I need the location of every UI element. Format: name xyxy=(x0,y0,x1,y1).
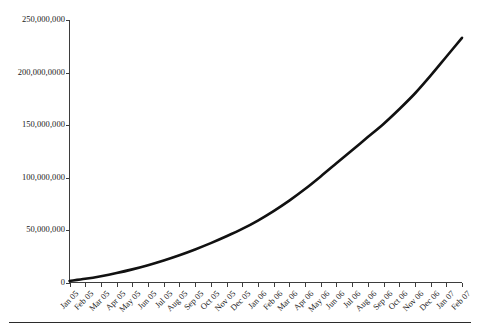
line-chart: 250,000,000200,000,0000150,000,000100,00… xyxy=(0,0,478,332)
bottom-rule xyxy=(9,322,471,323)
x-tick-label-layer: Jan 05Feb 05Mar 05Apr 05May 05Jun 05Jul … xyxy=(0,0,478,332)
